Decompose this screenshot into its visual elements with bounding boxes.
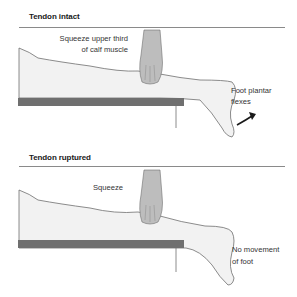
squeeze-label-line2: of calf muscle	[30, 45, 128, 55]
leg-illustration-intact	[0, 0, 297, 150]
result-label-line1: No movement	[232, 245, 279, 255]
result-label-line2: of foot	[232, 257, 253, 267]
leg	[19, 48, 236, 137]
curved-arrow-icon	[237, 112, 256, 125]
result-label-line1: Foot plantar	[231, 86, 272, 96]
squeezing-hand	[140, 170, 163, 224]
table-top	[18, 98, 184, 106]
result-label-line2: flexes	[231, 97, 251, 107]
leg-illustration-ruptured	[0, 150, 297, 297]
leg	[19, 190, 234, 285]
squeeze-label: Squeeze	[93, 183, 123, 193]
squeeze-label-line1: Squeeze upper third	[30, 34, 128, 44]
squeezing-hand	[140, 30, 163, 84]
table-top	[18, 240, 184, 248]
